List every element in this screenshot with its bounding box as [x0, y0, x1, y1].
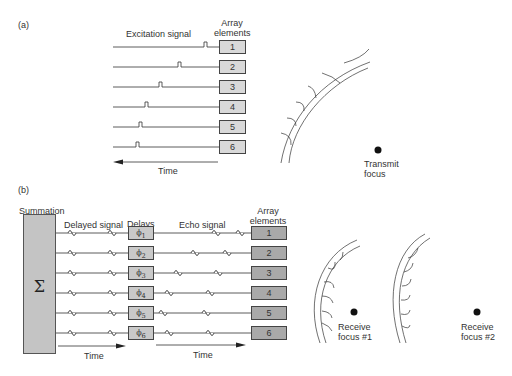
- array-label-b-line2: elements: [248, 216, 288, 226]
- array-element-b-4: 4: [251, 286, 287, 300]
- receive-focus-1-label: Receive focus #1: [338, 322, 372, 342]
- delay-box-1: ϕ1: [128, 226, 154, 240]
- array-element-a-5: 5: [219, 120, 246, 134]
- array-element-b-6: 6: [251, 326, 287, 340]
- array-element-b-2: 2: [251, 246, 287, 260]
- time-label-b-left: Time: [84, 351, 104, 361]
- panel-b-label: (b): [18, 185, 29, 195]
- array-element-a-2: 2: [219, 60, 246, 74]
- delay-box-4: ϕ4: [128, 286, 154, 300]
- delayed-signal-label: Delayed signal: [64, 220, 123, 230]
- array-element-a-6: 6: [219, 140, 246, 154]
- array-element-a-4: 4: [219, 100, 246, 114]
- receive-focus-1-line2: focus #1: [338, 332, 372, 342]
- delay-box-5: ϕ5: [128, 306, 154, 320]
- delay-box-2: ϕ2: [128, 246, 154, 260]
- time-label-b-right: Time: [193, 350, 213, 360]
- time-label-a: Time: [158, 166, 178, 176]
- receive-focus-2-line2: focus #2: [461, 332, 495, 342]
- delay-index: 6: [142, 332, 146, 340]
- array-element-a-3: 3: [219, 80, 246, 94]
- excitation-lines: [113, 42, 219, 147]
- delay-box-6: ϕ6: [128, 326, 154, 340]
- sigma-symbol: Σ: [24, 277, 55, 296]
- delay-box-3: ϕ3: [128, 266, 154, 280]
- receive-focus-2-dot: [474, 309, 481, 316]
- receive-focus-1-dot: [351, 309, 358, 316]
- time-arrowhead-b-right: [236, 343, 246, 348]
- time-arrowhead-b-left: [116, 344, 126, 349]
- delay-index: 3: [142, 272, 146, 280]
- summation-box: Σ: [23, 214, 56, 354]
- transmit-focus-line1: Transmit: [364, 159, 399, 169]
- receive-focus-2-line1: Receive: [461, 322, 495, 332]
- transmit-focus-line2: focus: [364, 169, 399, 179]
- echo-wavelets: [68, 231, 244, 336]
- delay-index: 1: [142, 232, 146, 240]
- array-element-a-1: 1: [219, 40, 246, 54]
- transmit-focus-dot: [375, 147, 382, 154]
- array-label-b-line1: Array: [248, 206, 288, 216]
- array-element-b-5: 5: [251, 306, 287, 320]
- transmit-wavefront: [281, 49, 370, 163]
- array-element-b-3: 3: [251, 266, 287, 280]
- receive-focus-2-label: Receive focus #2: [461, 322, 495, 342]
- receive-focus-1-line1: Receive: [338, 322, 372, 332]
- echo-signal-label: Echo signal: [179, 220, 226, 230]
- delay-index: 5: [142, 312, 146, 320]
- delay-index: 4: [142, 292, 146, 300]
- receive-wavefront-2: [393, 234, 430, 343]
- array-element-b-1: 1: [251, 226, 287, 240]
- array-elements-label-b: Array elements: [248, 206, 288, 226]
- time-arrowhead-a: [113, 160, 123, 165]
- transmit-focus-label: Transmit focus: [364, 159, 399, 179]
- delay-index: 2: [142, 252, 146, 260]
